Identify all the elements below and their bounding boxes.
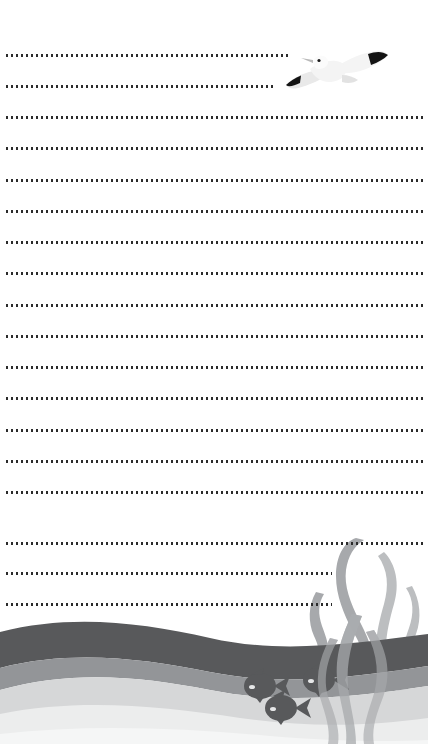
writing-line[interactable] (6, 210, 423, 213)
writing-lines (0, 0, 428, 744)
writing-line[interactable] (6, 85, 276, 88)
writing-line[interactable] (6, 335, 423, 338)
writing-line[interactable] (6, 179, 423, 182)
seagull-icon (286, 47, 390, 99)
writing-line[interactable] (6, 147, 423, 150)
writing-line[interactable] (6, 397, 423, 400)
writing-line[interactable] (6, 603, 332, 606)
seagull-svg (286, 47, 390, 99)
writing-line[interactable] (6, 54, 289, 57)
writing-line[interactable] (6, 429, 423, 432)
stationery-page (0, 0, 428, 744)
writing-line[interactable] (6, 460, 423, 463)
writing-line[interactable] (6, 241, 423, 244)
writing-line[interactable] (6, 491, 423, 494)
writing-line[interactable] (6, 572, 332, 575)
writing-line[interactable] (6, 304, 423, 307)
writing-line[interactable] (6, 366, 423, 369)
writing-line[interactable] (6, 116, 423, 119)
writing-line[interactable] (6, 542, 423, 545)
writing-line[interactable] (6, 272, 423, 275)
